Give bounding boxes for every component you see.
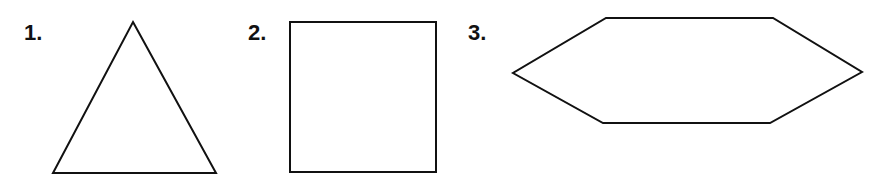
square-icon xyxy=(290,22,436,172)
worksheet-canvas: 1. 2. 3. xyxy=(0,0,896,178)
hexagon-icon xyxy=(513,18,862,123)
triangle-drawing xyxy=(0,0,240,178)
shape-item-2: 2. xyxy=(240,0,460,178)
hexagon-drawing xyxy=(460,0,896,178)
triangle-icon xyxy=(53,22,216,173)
square-drawing xyxy=(240,0,460,178)
shape-item-3: 3. xyxy=(460,0,896,178)
shape-item-1: 1. xyxy=(0,0,240,178)
